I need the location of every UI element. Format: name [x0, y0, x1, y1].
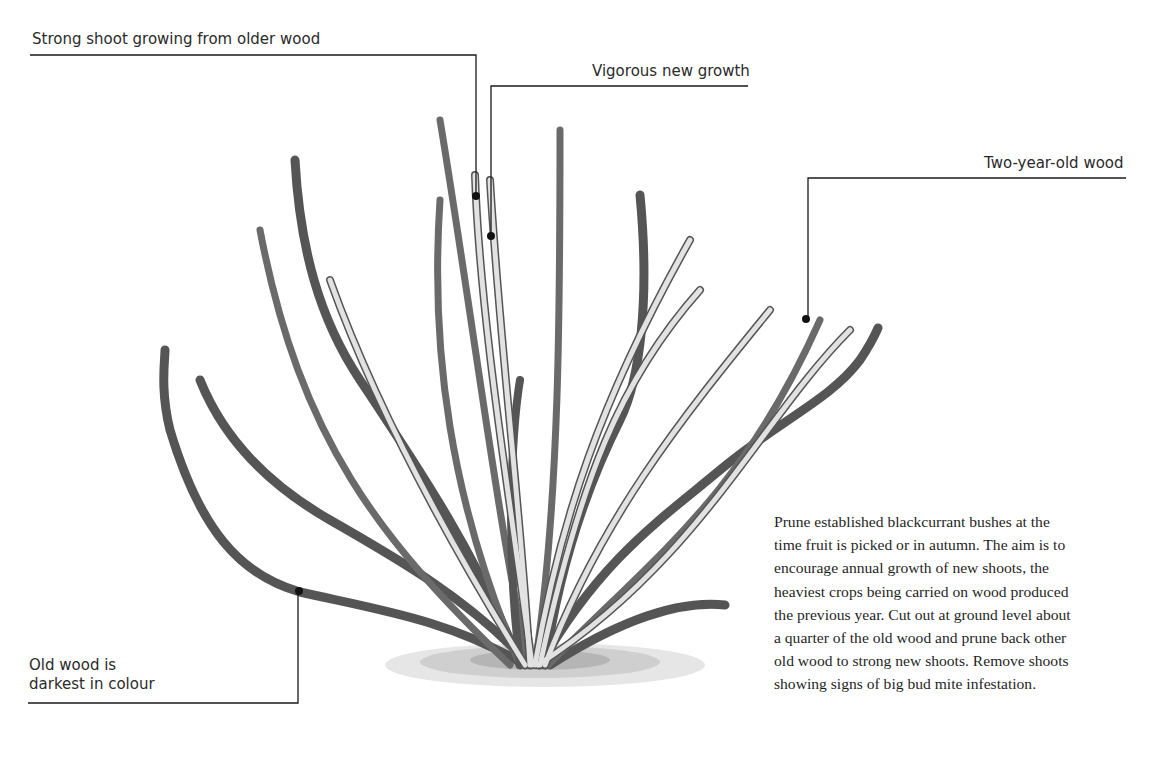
label-strong-shoot: Strong shoot growing from older wood [32, 30, 320, 49]
caption-line: a quarter of the old wood and prune back… [774, 626, 1146, 649]
label-vigorous-growth: Vigorous new growth [592, 62, 750, 81]
caption-line: heaviest crops being carried on wood pro… [774, 580, 1146, 603]
leader-vigorous-growth [491, 86, 748, 236]
caption-line: old wood to strong new shoots. Remove sh… [774, 649, 1146, 672]
caption-line: showing signs of big bud mite infestatio… [774, 672, 1146, 695]
pruning-caption: Prune established blackcurrant bushes at… [774, 510, 1146, 696]
dot-vigorous-growth [487, 232, 495, 240]
leader-two-year-wood [808, 178, 1126, 319]
label-old-wood-line-1: Old wood is [29, 656, 155, 675]
dot-two-year-wood [802, 315, 810, 323]
dot-old-wood [295, 587, 303, 595]
label-old-wood: Old wood is darkest in colour [29, 656, 155, 694]
dot-strong-shoot [472, 192, 480, 200]
caption-line: encourage annual growth of new shoots, t… [774, 556, 1146, 579]
caption-line: Prune established blackcurrant bushes at… [774, 510, 1146, 533]
caption-line: the previous year. Cut out at ground lev… [774, 603, 1146, 626]
label-old-wood-line-2: darkest in colour [29, 675, 155, 694]
label-two-year-wood: Two-year-old wood [984, 154, 1124, 173]
caption-line: time fruit is picked or in autumn. The a… [774, 533, 1146, 556]
leader-strong-shoot [30, 55, 476, 196]
